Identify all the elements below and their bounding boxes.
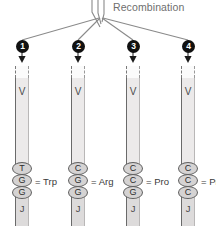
nucleotide-1-3: G [12,186,32,199]
recombination-title: Recombination [113,1,184,13]
amino-acid-label-2: = Arg [91,176,113,187]
v-segment-label-2: V [71,86,85,97]
v-segment-label-1: V [15,86,29,97]
branch-badge-3: 3 [127,40,140,53]
v-segment-dashed-4 [181,66,195,78]
v-segment-label-4: V [181,86,195,97]
v-segment-dashed-2 [71,66,85,78]
j-segment-label-4: J [181,203,195,214]
j-segment-label-1: J [15,203,29,214]
branch-badge-4: 4 [182,40,195,53]
amino-acid-label-4: = Pro [201,176,216,187]
nucleotide-4-3: C [178,186,198,199]
v-segment-label-3: V [126,86,140,97]
j-segment-label-2: J [71,203,85,214]
amino-acid-label-3: = Pro [146,176,169,187]
nucleotide-2-3: G [68,186,88,199]
v-segment-dashed-3 [126,66,140,78]
recombination-diagram: Recombination 1 V J T G G = Trp 2 V J C … [0,0,216,228]
nucleotide-3-3: G [123,186,143,199]
j-segment-label-3: J [126,203,140,214]
branch-badge-1: 1 [16,40,29,53]
branch-badge-2: 2 [72,40,85,53]
amino-acid-label-1: = Trp [35,176,57,187]
v-segment-dashed-1 [15,66,29,78]
